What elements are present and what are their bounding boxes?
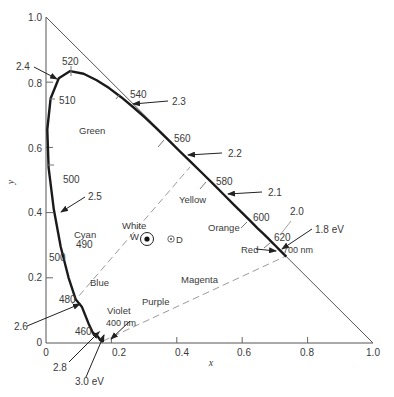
y-tick-0: 0	[36, 337, 42, 348]
x-tick-0.4: 0.4	[175, 347, 189, 358]
ev-2.0: 2.0	[290, 206, 304, 217]
wl-560: 560	[174, 133, 191, 144]
x-tick-0.8: 0.8	[300, 347, 314, 358]
ev-1.8: 1.8 eV	[315, 224, 344, 235]
ev-2.3: 2.3	[172, 96, 186, 107]
wl-460: 460	[75, 326, 92, 337]
label-magenta: Magenta	[181, 274, 219, 285]
ev-2.2: 2.2	[228, 148, 242, 159]
ev-labels: 2.4 2.3 2.2 2.1 2.0 1.8 eV 2.5 2.6 2.8 3…	[14, 61, 344, 387]
ev-2.4: 2.4	[16, 61, 30, 72]
label-orange: Orange	[208, 222, 240, 233]
y-tick-1.0: 1.0	[28, 12, 42, 23]
wl-700: 700 nm	[283, 245, 313, 255]
label-blue: Blue	[90, 277, 109, 288]
wl-490: 490	[76, 239, 93, 250]
ev-2.5: 2.5	[88, 191, 102, 202]
illuminant-point-D	[168, 236, 174, 242]
x-tick-0.6: 0.6	[237, 347, 251, 358]
wl-600: 600	[253, 212, 270, 223]
y-tick-0.4: 0.4	[28, 207, 42, 218]
x-tick-0.2: 0.2	[112, 347, 126, 358]
wl-580: 580	[216, 176, 233, 187]
label-purple: Purple	[142, 296, 169, 307]
y-tick-0.2: 0.2	[28, 272, 42, 283]
y-tick-labels: 0 0.2 0.4 0.6 0.8 1.0	[28, 12, 42, 348]
label-d: D	[176, 234, 183, 245]
white-point-W	[141, 233, 154, 246]
wl-540: 540	[130, 89, 147, 100]
x-axis-title: x	[208, 357, 214, 368]
x-ticks	[111, 337, 307, 343]
label-white: White	[122, 220, 146, 231]
y-tick-0.6: 0.6	[28, 143, 42, 154]
label-green: Green	[79, 125, 105, 136]
label-w: W	[130, 231, 139, 242]
label-red: Red	[241, 244, 258, 255]
cie-chromaticity-chart: 0 0.2 0.4 0.6 0.8 1.0 0 0.2 0.4 0.6 0.8 …	[0, 0, 394, 397]
purple-line	[103, 256, 286, 341]
wl-510: 510	[59, 95, 76, 106]
label-cyan: Cyan	[74, 229, 96, 240]
y-tick-0.8: 0.8	[28, 78, 42, 89]
ev-3.0: 3.0 eV	[75, 376, 104, 387]
x-tick-1.0: 1.0	[366, 347, 380, 358]
wl-400: 400 nm	[106, 318, 136, 328]
wl-480: 480	[59, 294, 76, 305]
y-axis-title: y	[5, 179, 16, 185]
wl-500-upper: 500	[63, 174, 80, 185]
ev-2.1: 2.1	[268, 187, 282, 198]
wl-500-lower: 500	[49, 252, 66, 263]
x-tick-0: 0	[43, 347, 49, 358]
label-yellow: Yellow	[179, 194, 206, 205]
ev-2.6: 2.6	[14, 321, 28, 332]
label-violet: Violet	[107, 305, 131, 316]
ev-2.8: 2.8	[53, 362, 67, 373]
wl-520: 520	[62, 56, 79, 67]
wl-620: 620	[274, 232, 291, 243]
